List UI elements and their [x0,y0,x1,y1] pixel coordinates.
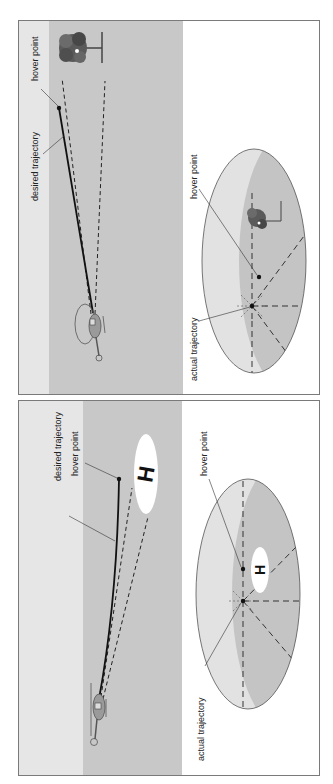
ground-area [49,21,183,395]
actual-position-marker [250,304,254,308]
label-hover-point-overhead: hover point [199,431,209,476]
label-hover-point-overhead: hover point [189,154,199,199]
overhead-view [202,131,320,391]
label-hover-point: hover point [70,431,80,476]
hover-point-marker [57,106,61,110]
actual-position-marker [241,599,245,603]
overhead-view: H [196,459,320,729]
label-hover-point: hover point [30,36,40,81]
label-actual-trajectory: actual trajectory [196,697,206,761]
label-desired-trajectory: desired trajectory [53,411,63,481]
helipad-icon-overhead: H [251,547,269,593]
tree-approach-panel: hover point desired trajectory [18,20,320,395]
tree-approach-diagram: hover point desired trajectory [19,21,320,395]
hover-point-marker-overhead [241,567,245,571]
label-actual-trajectory: actual trajectory [189,317,199,381]
helipad-approach-panel: H desired trajectory hover point [18,400,320,776]
hover-point-marker-overhead [257,275,261,279]
helipad-letter-overhead: H [252,565,268,575]
hover-point-marker [117,477,121,481]
label-desired-trajectory: desired trajectory [30,131,40,201]
helipad-approach-diagram: H desired trajectory hover point [19,401,320,776]
